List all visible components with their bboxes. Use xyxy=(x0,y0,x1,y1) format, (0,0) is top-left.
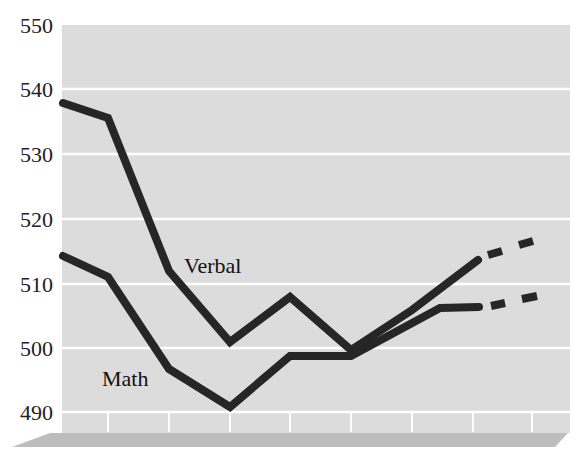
math-projection-dash-1 xyxy=(491,303,505,306)
y-tick-520: 520 xyxy=(20,207,53,232)
label-math: Math xyxy=(102,366,148,391)
verbal-projection-dash-2 xyxy=(519,241,533,245)
y-tick-550: 550 xyxy=(20,13,53,38)
y-tick-490: 490 xyxy=(20,400,53,425)
y-tick-510: 510 xyxy=(20,272,53,297)
y-axis: 550 540 530 520 510 500 490 xyxy=(20,13,53,425)
y-tick-530: 530 xyxy=(20,142,53,167)
math-projection-dash-2 xyxy=(522,296,537,299)
sat-score-chart: 550 540 530 520 510 500 490 Verbal Math xyxy=(0,0,582,457)
verbal-projection-dash-1 xyxy=(488,251,502,255)
y-tick-500: 500 xyxy=(20,336,53,361)
chart-base xyxy=(12,433,568,447)
y-tick-540: 540 xyxy=(20,77,53,102)
label-verbal: Verbal xyxy=(184,253,241,278)
